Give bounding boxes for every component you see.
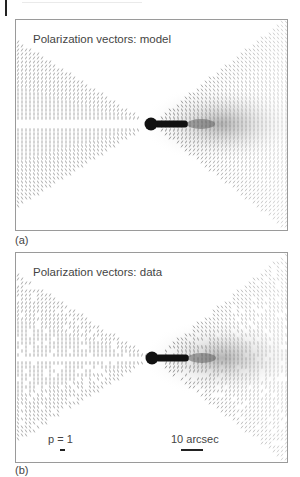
header-rule (22, 2, 142, 3)
panel-label-a: (a) (15, 234, 28, 246)
margin-bar (5, 0, 7, 16)
panel-data: Polarization vectors: data p = 1 10 arcs… (15, 252, 288, 463)
panel-label-b: (b) (15, 464, 28, 476)
polarization-vector-field-data (16, 253, 287, 462)
distance-scale-bar (181, 449, 203, 451)
polarization-vector-field-model (16, 20, 287, 230)
panel-title-model: Polarization vectors: model (33, 33, 171, 45)
polarization-scale-label: p = 1 (48, 433, 73, 445)
panel-title-data: Polarization vectors: data (33, 266, 162, 278)
polarization-scale-bar (60, 449, 65, 451)
distance-scale-label: 10 arcsec (171, 433, 219, 445)
panel-model: Polarization vectors: model (15, 19, 288, 231)
